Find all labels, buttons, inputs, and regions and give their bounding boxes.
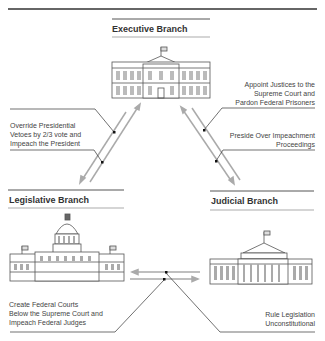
judicial-branch-title: Judicial Branch — [211, 196, 278, 206]
supreme-court-building-icon — [210, 231, 312, 284]
diagram-canvas — [0, 0, 325, 341]
check-override-impeach: Override Presidential Vetoes by 2/3 vote… — [10, 121, 130, 148]
check-appoint-pardon: Appoint Justices to the Supreme Court an… — [175, 80, 315, 107]
legislative-branch-title: Legislative Branch — [9, 195, 89, 205]
check-preside-impeachment: Preside Over Impeachment Proceedings — [175, 131, 315, 149]
check-create-courts: Create Federal Courts Below the Supreme … — [9, 300, 149, 327]
executive-branch-title: Executive Branch — [112, 24, 188, 34]
capitol-building-icon — [10, 214, 124, 281]
check-rule-unconstitutional: Rule Legislation Unconstitutional — [195, 310, 315, 328]
